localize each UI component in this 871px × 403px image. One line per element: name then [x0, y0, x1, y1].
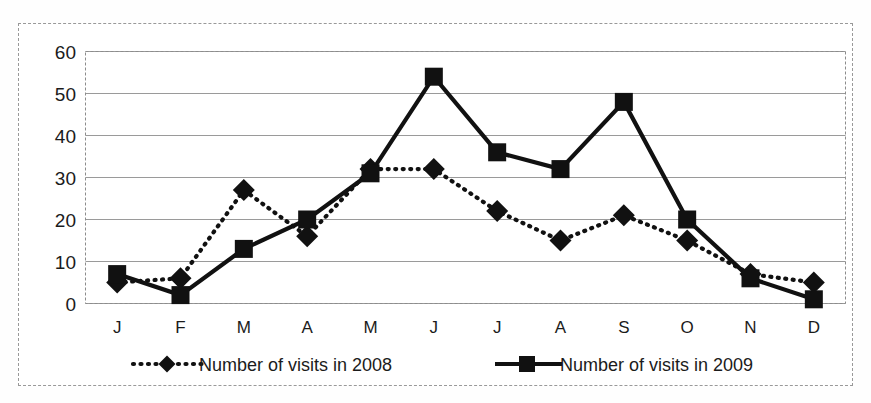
x-axis-tick-label: J — [113, 318, 122, 337]
y-axis-tick-label: 0 — [65, 294, 76, 315]
y-axis-tick-label: 60 — [55, 42, 76, 63]
x-axis-tick-label: D — [808, 318, 820, 337]
series-2008-data-point — [550, 230, 572, 252]
x-axis-tick-label: N — [744, 318, 756, 337]
x-axis-tick-label: M — [363, 318, 377, 337]
x-axis-tick-label: A — [555, 318, 567, 337]
x-axis-tick-label: O — [681, 318, 694, 337]
x-axis-tick-label: J — [493, 318, 502, 337]
series-2009-data-point — [108, 265, 126, 283]
chart-container: 0102030405060 JFMAMJJASOND Number of vis… — [0, 0, 871, 403]
legend-2009-label: Number of visits in 2009 — [560, 355, 753, 375]
y-axis-tick-label: 20 — [55, 210, 76, 231]
series-2008-data-point — [423, 158, 445, 180]
series-2008-data-point — [233, 179, 255, 201]
series-2008-data-point — [676, 230, 698, 252]
legend-2008-diamond-icon — [159, 356, 176, 373]
x-axis-tick-label: J — [430, 318, 439, 337]
x-axis-tick-label: F — [175, 318, 185, 337]
series-2009-data-point — [805, 290, 823, 308]
x-axis-tick-label: S — [618, 318, 629, 337]
series-2009-data-point — [362, 164, 380, 182]
series-2009-data-point — [172, 286, 190, 304]
line-chart-svg: 0102030405060 JFMAMJJASOND Number of vis… — [0, 0, 871, 403]
series-2009-data-point — [425, 68, 443, 86]
legend-2009-square-icon — [519, 356, 535, 372]
series-2008-data-point — [613, 204, 635, 226]
y-axis-tick-label: 10 — [55, 252, 76, 273]
legend-item-2008: Number of visits in 2008 — [133, 355, 392, 375]
series-2009-data-point — [678, 211, 696, 229]
series-2008-data-point — [486, 200, 508, 222]
y-axis-tick-label: 30 — [55, 168, 76, 189]
series-2009-data-point — [552, 160, 570, 178]
series-2009-data-point — [235, 240, 253, 258]
legend-2008-label: Number of visits in 2008 — [199, 355, 392, 375]
y-axis-tick-label: 50 — [55, 84, 76, 105]
x-axis-tick-labels: JFMAMJJASOND — [113, 318, 820, 337]
series-2009-data-point — [615, 93, 633, 111]
y-gridlines — [86, 52, 846, 304]
x-axis-tick-label: A — [301, 318, 313, 337]
x-axis-tick-label: M — [237, 318, 251, 337]
y-axis-tick-label: 40 — [55, 126, 76, 147]
legend: Number of visits in 2008 Number of visit… — [133, 355, 753, 375]
series-2009-data-point — [742, 269, 760, 287]
series-2008-data-point — [803, 272, 825, 294]
y-axis-tick-labels: 0102030405060 — [55, 42, 76, 315]
series-2009-data-point — [488, 143, 506, 161]
series-2009-data-point — [298, 211, 316, 229]
legend-item-2009: Number of visits in 2009 — [495, 355, 753, 375]
